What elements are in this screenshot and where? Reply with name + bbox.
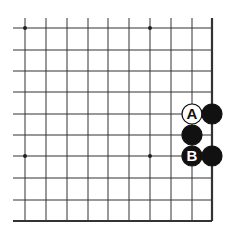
stone-label: A [187, 105, 198, 122]
black-stone [202, 146, 222, 166]
black-stone-b: B [182, 146, 202, 166]
stone-icon [182, 125, 202, 145]
stone-label: B [187, 147, 198, 164]
board-grid [13, 18, 212, 221]
star-point-icon [148, 154, 152, 158]
star-point-icon [23, 154, 27, 158]
black-stone [182, 125, 202, 145]
black-stone [202, 104, 222, 124]
star-point-icon [148, 26, 152, 30]
go-board: AB [0, 0, 233, 239]
stone-icon [202, 104, 222, 124]
stones: AB [182, 104, 222, 166]
white-stone-a: A [182, 104, 202, 124]
star-point-icon [23, 26, 27, 30]
stone-icon [202, 146, 222, 166]
